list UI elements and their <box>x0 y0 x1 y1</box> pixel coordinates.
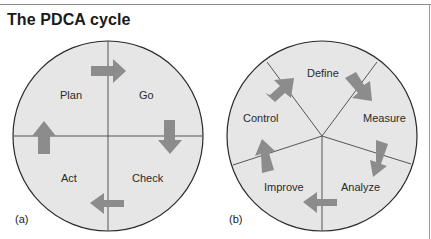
tag-b: (b) <box>229 213 242 225</box>
pdca-diagrams: Plan Go Check Act (a) Define Measure Ana… <box>0 0 431 239</box>
tag-a: (a) <box>15 213 28 225</box>
diagram-b: Define Measure Analyze Improve Control (… <box>227 41 417 231</box>
label-define: Define <box>307 67 339 79</box>
label-plan: Plan <box>60 89 82 101</box>
label-control: Control <box>243 112 278 124</box>
label-go: Go <box>139 89 154 101</box>
label-measure: Measure <box>363 112 406 124</box>
label-act: Act <box>61 172 77 184</box>
diagram-a: Plan Go Check Act (a) <box>13 41 203 231</box>
label-improve: Improve <box>264 181 304 193</box>
label-check: Check <box>132 172 164 184</box>
label-analyze: Analyze <box>341 181 380 193</box>
